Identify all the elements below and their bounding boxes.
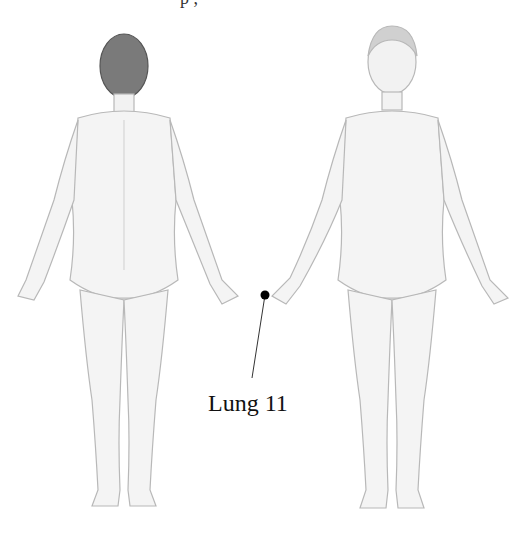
torso-front	[338, 111, 446, 298]
point-label: Lung 11	[208, 390, 288, 417]
figure-front-view	[272, 26, 508, 508]
neck-front	[382, 92, 402, 110]
right-arm-front	[438, 120, 508, 304]
right-leg-back	[124, 290, 168, 506]
figure-back-view	[18, 34, 238, 506]
right-arm-back	[170, 120, 238, 304]
diagram-canvas	[0, 0, 515, 533]
left-leg-back	[80, 290, 124, 506]
head-back	[100, 34, 148, 98]
leader-line	[252, 295, 265, 378]
left-leg-front	[348, 290, 392, 508]
point-marker[interactable]	[261, 291, 270, 300]
neck-back	[114, 94, 134, 112]
left-arm-back	[18, 120, 78, 300]
right-leg-front	[392, 290, 436, 508]
left-arm-front	[272, 120, 346, 304]
lung-11-annotation	[252, 291, 270, 379]
